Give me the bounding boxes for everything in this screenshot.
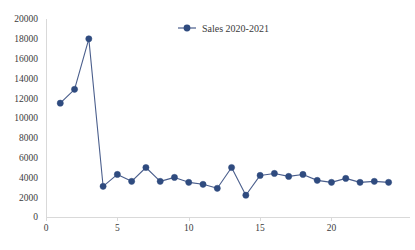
data-point-marker [300, 171, 306, 177]
data-point-marker [157, 178, 163, 184]
data-point-marker [328, 179, 334, 185]
x-axis-tick-label: 15 [255, 223, 265, 233]
data-point-marker [271, 170, 277, 176]
data-point-marker [114, 171, 120, 177]
line-chart: 0200040006000800010000120001400016000180… [0, 0, 415, 250]
data-point-marker [228, 164, 234, 170]
y-axis-tick-label: 6000 [19, 153, 38, 163]
data-point-marker [186, 179, 192, 185]
y-axis-tick-label: 12000 [14, 94, 38, 104]
data-point-marker [385, 179, 391, 185]
y-axis-tick-label: 10000 [14, 113, 38, 123]
y-axis-tick-label: 0 [33, 212, 38, 222]
data-point-marker [343, 175, 349, 181]
data-point-marker [57, 100, 63, 106]
y-axis-tick-label: 4000 [19, 173, 38, 183]
data-point-marker [243, 192, 249, 198]
y-axis-tick-label: 18000 [14, 34, 38, 44]
data-point-marker [100, 183, 106, 189]
data-point-marker [214, 185, 220, 191]
x-axis-tick-label: 5 [115, 223, 120, 233]
x-axis-tick-label: 10 [184, 223, 194, 233]
x-axis-tick-label: 20 [327, 223, 337, 233]
data-point-marker [71, 86, 77, 92]
data-point-marker [129, 178, 135, 184]
legend-entry-label[interactable]: Sales 2020-2021 [202, 23, 269, 34]
y-axis-tick-label: 14000 [14, 74, 38, 84]
data-point-marker [286, 173, 292, 179]
y-axis-tick-label: 8000 [19, 133, 38, 143]
data-point-marker [171, 174, 177, 180]
data-point-marker [357, 179, 363, 185]
data-point-marker [314, 177, 320, 183]
chart-container: 0200040006000800010000120001400016000180… [0, 0, 415, 250]
data-point-marker [143, 164, 149, 170]
y-axis-tick-label: 20000 [14, 14, 38, 24]
chart-background [0, 0, 415, 250]
data-point-marker [371, 178, 377, 184]
legend-marker-swatch [184, 25, 191, 32]
y-axis-tick-label: 16000 [14, 54, 38, 64]
y-axis-tick-label: 2000 [19, 193, 38, 203]
x-axis-tick-label: 0 [44, 223, 49, 233]
data-point-marker [86, 36, 92, 42]
data-point-marker [200, 181, 206, 187]
data-point-marker [257, 172, 263, 178]
